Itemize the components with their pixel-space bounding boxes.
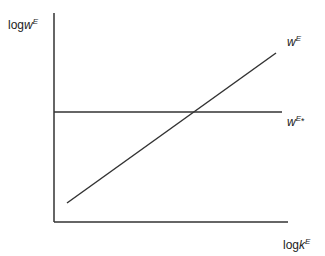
wE-sloped-line [67,53,276,203]
x-axis-label: logkE [283,236,310,251]
y-axis-label-var: w [24,18,33,32]
x-axis-label-prefix: log [283,238,299,252]
y-axis-label-prefix: log [8,18,24,32]
wE-curve-label: wE [287,33,301,48]
diagram-canvas [0,0,325,256]
y-axis-label-sup: E [33,17,38,26]
wE-star-curve-label: wE* [287,113,305,128]
wE-star-label-star: * [301,116,305,126]
y-axis-label: logwE [8,16,38,31]
wE-label-sup: E [296,34,301,43]
wE-label-var: w [287,35,296,49]
wE-star-label-var: w [287,115,296,129]
x-axis-label-sup: E [305,237,310,246]
